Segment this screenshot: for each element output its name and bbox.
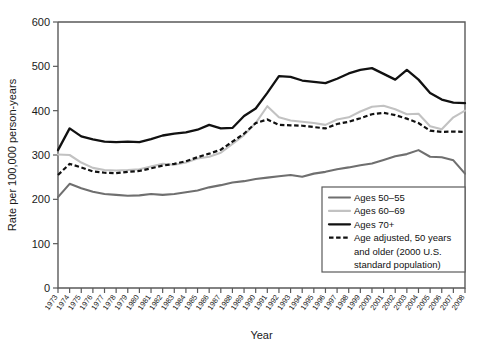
x-tick-label: 2008 xyxy=(450,293,467,312)
legend-label: Ages 50–55 xyxy=(354,192,405,203)
y-tick-label: 300 xyxy=(32,149,50,161)
legend-label: Ages 60–69 xyxy=(354,205,405,216)
y-axis-title: Rate per 100,000 person-years xyxy=(6,78,18,231)
y-tick-layer: 0100200300400500600 xyxy=(32,16,58,294)
series-layer xyxy=(58,68,465,197)
x-tick-layer: 1973197419751976197719781979198019811982… xyxy=(43,288,467,312)
series-line xyxy=(58,68,465,150)
legend-label: standard population) xyxy=(354,259,441,270)
line-chart: 0100200300400500600 19731974197519761977… xyxy=(0,0,482,349)
y-tick-label: 200 xyxy=(32,193,50,205)
chart-legend: Ages 50–55Ages 60–69Ages 70+Age adjusted… xyxy=(322,187,465,272)
legend-label: and older (2000 U.S. xyxy=(354,246,442,257)
y-tick-label: 600 xyxy=(32,16,50,28)
chart-figure: 0100200300400500600 19731974197519761977… xyxy=(0,0,482,349)
legend-label: Ages 70+ xyxy=(354,219,395,230)
series-line xyxy=(58,113,465,175)
legend-label: Age adjusted, 50 years xyxy=(354,232,451,243)
series-line xyxy=(58,106,465,171)
y-tick-label: 500 xyxy=(32,60,50,72)
y-tick-label: 100 xyxy=(32,238,50,250)
x-axis-title: Year xyxy=(250,329,273,341)
y-tick-label: 400 xyxy=(32,105,50,117)
y-tick-label: 0 xyxy=(44,282,50,294)
